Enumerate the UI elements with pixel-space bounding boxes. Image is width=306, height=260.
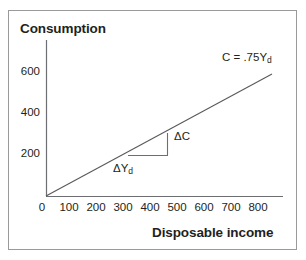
x-axis-title: Disposable income	[152, 226, 273, 240]
delta-y-main-text: ΔY	[113, 162, 128, 174]
consumption-function-figure: Consumption Disposable income 600 400 20…	[0, 0, 306, 260]
y-tick-600: 600	[14, 66, 40, 78]
chart-frame	[8, 10, 297, 250]
delta-y-label: ΔYd	[113, 163, 133, 176]
x-tick-300: 300	[110, 202, 136, 214]
x-tick-600: 600	[191, 202, 217, 214]
x-tick-500: 500	[164, 202, 190, 214]
x-tick-0: 0	[29, 202, 55, 214]
x-tick-100: 100	[56, 202, 82, 214]
equation-subscript: d	[267, 55, 272, 65]
y-tick-400: 400	[14, 107, 40, 119]
x-tick-700: 700	[218, 202, 244, 214]
equation-main-text: C = .75Y	[222, 51, 267, 63]
x-tick-200: 200	[83, 202, 109, 214]
x-tick-400: 400	[137, 202, 163, 214]
equation-label: C = .75Yd	[222, 52, 272, 65]
delta-c-label: ΔC	[174, 131, 190, 143]
y-tick-200: 200	[14, 148, 40, 160]
x-tick-800: 800	[245, 202, 271, 214]
delta-y-subscript: d	[128, 166, 133, 176]
y-axis-title: Consumption	[20, 22, 106, 36]
